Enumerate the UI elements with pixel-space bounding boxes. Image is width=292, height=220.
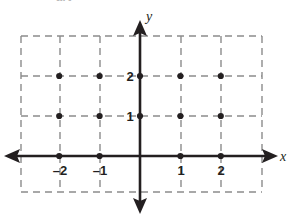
data-point — [177, 153, 183, 159]
data-point — [56, 73, 62, 79]
coordinate-plane-svg: x y –2 –1 1 2 2 1 — [0, 0, 292, 220]
data-point — [218, 113, 224, 119]
data-point — [137, 113, 143, 119]
data-point — [218, 73, 224, 79]
x-axis-label: x — [279, 149, 287, 164]
x-tick-label-neg1: –1 — [93, 163, 107, 178]
coordinate-plane-figure: art x y — [0, 0, 292, 220]
data-point — [56, 113, 62, 119]
data-point — [177, 113, 183, 119]
data-point — [218, 153, 224, 159]
data-point — [177, 73, 183, 79]
data-point — [137, 73, 143, 79]
x-tick-label-pos1: 1 — [177, 163, 184, 178]
y-tick-label-pos2: 2 — [126, 69, 133, 84]
data-point — [97, 73, 103, 79]
x-tick-label-neg2: –2 — [53, 163, 67, 178]
data-point — [97, 113, 103, 119]
y-tick-label-pos1: 1 — [126, 109, 133, 124]
x-tick-label-pos2: 2 — [217, 163, 224, 178]
data-point — [56, 153, 62, 159]
data-point — [97, 153, 103, 159]
y-axis-label: y — [144, 9, 153, 24]
